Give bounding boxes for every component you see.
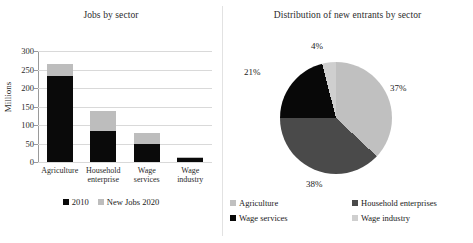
bar-segment-new-jobs-2020 [177, 157, 203, 158]
gridline [38, 51, 212, 52]
legend-entry: Household enterprises [352, 198, 473, 208]
gridline [38, 162, 212, 163]
legend-swatch-icon [230, 200, 236, 206]
y-axis-tick-mark [34, 125, 38, 126]
pie-graphic [280, 62, 392, 174]
pie-chart-panel: Distribution of new entrants by sector 3… [222, 0, 473, 243]
legend-entry: 2010 [63, 197, 89, 207]
y-axis-tick-label: 50 [10, 140, 34, 149]
legend-entry: New Jobs 2020 [98, 197, 159, 207]
figure-two-charts: Jobs by sector Millions 3002502001501005… [0, 0, 473, 243]
bar-group [134, 133, 160, 162]
bar-group [177, 157, 203, 162]
bar-chart-panel: Jobs by sector Millions 3002502001501005… [0, 0, 222, 243]
pie-chart-legend: AgricultureHousehold enterprisesWage ser… [230, 198, 473, 223]
x-axis-tick-label: Wageindustry [163, 166, 217, 184]
legend-swatch-icon [63, 199, 69, 205]
legend-entry: Wage services [230, 213, 352, 223]
y-axis-tick-label: 150 [10, 103, 34, 112]
bar-segment-2010 [134, 144, 160, 162]
bar-group [47, 64, 73, 162]
legend-swatch-icon [98, 199, 104, 205]
y-axis-tick-label: 100 [10, 121, 34, 130]
legend-label: New Jobs 2020 [107, 197, 159, 207]
bar-chart-legend: 2010New Jobs 2020 [0, 197, 222, 207]
bar-segment-new-jobs-2020 [134, 133, 160, 144]
legend-label: Household enterprises [361, 198, 437, 208]
y-axis-tick-label: 300 [10, 47, 34, 56]
bar-plot-area [38, 51, 212, 162]
pie-slice-label-wage-industry: 4% [311, 42, 323, 51]
legend-label: Wage services [239, 213, 288, 223]
bar-segment-2010 [47, 76, 73, 162]
pie-slice-label-agriculture: 37% [390, 84, 407, 93]
legend-entry: Agriculture [230, 198, 352, 208]
y-axis-tick-label: 200 [10, 84, 34, 93]
pie-graphic-wrapper [280, 62, 392, 174]
bar-group [90, 111, 116, 162]
bar-segment-2010 [177, 158, 203, 162]
y-axis-tick-mark [34, 144, 38, 145]
pie-slice-label-wage-services: 21% [244, 68, 261, 77]
y-axis-tick-mark [34, 70, 38, 71]
y-axis-tick-label: 0 [10, 158, 34, 167]
legend-label: Wage industry [361, 213, 410, 223]
pie-slice-label-household: 38% [306, 180, 323, 189]
legend-swatch-icon [352, 215, 358, 221]
legend-entry: Wage industry [352, 213, 473, 223]
legend-label: Agriculture [239, 198, 278, 208]
bar-segment-2010 [90, 131, 116, 162]
y-axis-tick-mark [34, 107, 38, 108]
legend-label: 2010 [72, 197, 89, 207]
y-axis-tick-label: 250 [10, 66, 34, 75]
bar-segment-new-jobs-2020 [47, 64, 73, 76]
bar-segment-new-jobs-2020 [90, 111, 116, 131]
pie-chart-title: Distribution of new entrants by sector [222, 10, 473, 20]
legend-swatch-icon [230, 215, 236, 221]
y-axis-tick-mark [34, 88, 38, 89]
legend-swatch-icon [352, 200, 358, 206]
y-axis-tick-mark [34, 51, 38, 52]
y-axis-tick-mark [34, 162, 38, 163]
